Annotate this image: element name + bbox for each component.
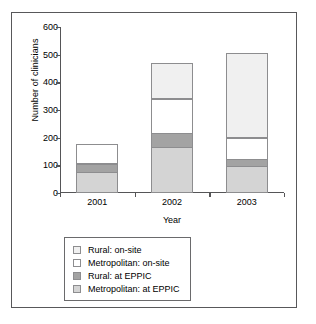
x-axis-tick-label: 2002 <box>162 197 182 207</box>
y-axis-line <box>60 27 61 193</box>
x-axis-title: Year <box>60 215 284 225</box>
chart-legend: Rural: on-siteMetropolitan: on-siteRural… <box>64 237 191 301</box>
legend-item[interactable]: Metropolitan: on-site <box>73 256 180 269</box>
legend-label: Metropolitan: on-site <box>88 258 170 268</box>
legend-item[interactable]: Metropolitan: at EPPIC <box>73 282 180 295</box>
x-axis-tick-label: 2003 <box>237 197 257 207</box>
bar-segment[interactable] <box>151 99 193 134</box>
bar-segment[interactable] <box>76 144 118 163</box>
bar-segment[interactable] <box>226 166 268 192</box>
legend-label: Rural: at EPPIC <box>88 271 152 281</box>
legend-swatch-icon <box>73 272 81 280</box>
y-axis-tick-mark <box>56 27 60 28</box>
bar-segment[interactable] <box>226 53 268 137</box>
legend-label: Metropolitan: at EPPIC <box>88 284 180 294</box>
bar-segment[interactable] <box>151 63 193 99</box>
chart-plot-area: Number of clinicians 0100200300400500600… <box>12 13 298 309</box>
y-axis-tick-mark <box>56 165 60 166</box>
x-axis-tick-labels: 200120022003 <box>60 197 284 211</box>
y-axis-tick-labels: 0100200300400500600 <box>28 27 58 193</box>
x-axis-tick-label: 2001 <box>87 197 107 207</box>
bar-2001[interactable] <box>76 143 118 192</box>
legend-item[interactable]: Rural: on-site <box>73 243 180 256</box>
figure-frame: Number of clinicians 0100200300400500600… <box>11 12 297 308</box>
legend-swatch-icon <box>73 259 81 267</box>
y-axis-tick-mark <box>56 138 60 139</box>
bar-segment[interactable] <box>226 138 268 160</box>
chart-axes <box>60 27 284 193</box>
bar-2002[interactable] <box>151 61 193 192</box>
bar-2003[interactable] <box>226 51 268 192</box>
bar-segment[interactable] <box>151 133 193 148</box>
y-axis-tick-mark <box>56 82 60 83</box>
legend-item[interactable]: Rural: at EPPIC <box>73 269 180 282</box>
legend-swatch-icon <box>73 246 81 254</box>
y-axis-tick-mark <box>56 110 60 111</box>
x-axis-tick-mark <box>284 193 285 197</box>
legend-swatch-icon <box>73 285 81 293</box>
y-axis-tick-mark <box>56 55 60 56</box>
legend-label: Rural: on-site <box>88 245 142 255</box>
bar-segment[interactable] <box>76 172 118 193</box>
bar-segment[interactable] <box>151 147 193 193</box>
